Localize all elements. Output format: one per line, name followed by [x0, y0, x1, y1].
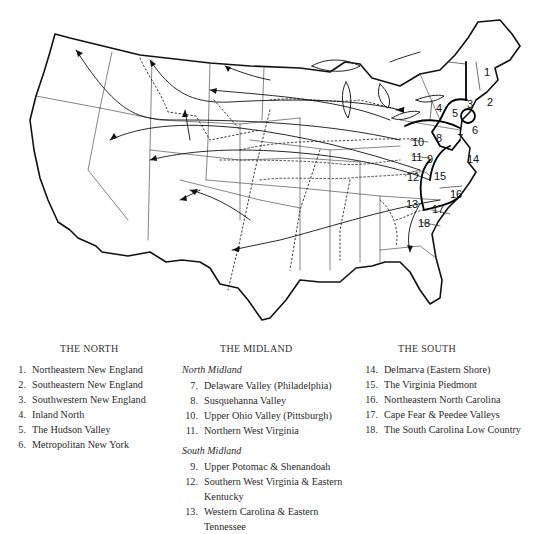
legend-item: 9.Upper Potomac & Shenandoah: [178, 459, 358, 474]
legend-item: 6.Metropolitan New York: [6, 437, 186, 452]
legend-item: 5.The Hudson Valley: [6, 422, 186, 437]
legend-item: 14.Delmarva (Eastern Shore): [358, 362, 550, 377]
dialect-map: 1 2 3 4 5 6 7 8 9 10 11 12 13 14 15 16 1…: [0, 0, 552, 340]
legend-item: 8.Susquehanna Valley: [178, 393, 358, 408]
region-label-10: 10: [412, 136, 424, 148]
region-label-13: 13: [406, 198, 418, 210]
region-label-2: 2: [487, 96, 493, 108]
heading-midland: The Midland: [220, 343, 292, 354]
us-outline: [30, 20, 520, 320]
region-label-14: 14: [467, 153, 479, 165]
legend-item: 11.Northern West Virginia: [178, 423, 358, 438]
legend-item: 16.Northeastern North Carolina: [358, 392, 550, 407]
legend-south: 14.Delmarva (Eastern Shore) 15.The Virgi…: [358, 362, 550, 437]
region-label-1: 1: [484, 66, 490, 78]
region-labels: 1 2 3 4 5 6 7 8 9 10 11 12 13 14 15 16 1…: [406, 66, 493, 229]
region-label-3: 3: [467, 98, 473, 110]
region-label-9: 9: [427, 153, 433, 165]
region-label-6: 6: [472, 124, 478, 136]
legend-north: 1.Northeastern New England 2.Southeaster…: [6, 362, 186, 452]
heading-north: The North: [60, 343, 118, 354]
legend-item: 18.The South Carolina Low Country: [358, 422, 550, 437]
region-label-11: 11: [411, 151, 422, 163]
region-label-12: 12: [407, 171, 419, 183]
region-label-5: 5: [452, 107, 458, 119]
region-label-18: 18: [418, 217, 430, 229]
legend-item: 12.Southern West Virginia & Eastern Kent…: [178, 474, 358, 504]
legend-item: 2.Southeastern New England: [6, 377, 186, 392]
legend-item: 15.The Virginia Piedmont: [358, 377, 550, 392]
legend-item: 17.Cape Fear & Peedee Valleys: [358, 407, 550, 422]
region-label-4: 4: [436, 102, 442, 114]
legend-item: 3.Southwestern New England: [6, 392, 186, 407]
region-label-15: 15: [434, 170, 446, 182]
legend-item: 7.Delaware Valley (Philadelphia): [178, 378, 358, 393]
region-label-7: 7: [457, 132, 463, 144]
legend-item: 13.Western Carolina & Eastern Tennessee: [178, 504, 358, 534]
region-label-17: 17: [432, 203, 444, 215]
legend-item: 4.Inland North: [6, 407, 186, 422]
legend-item: 10.Upper Ohio Valley (Pittsburgh): [178, 408, 358, 423]
region-label-8: 8: [436, 132, 442, 144]
legend-midland: North Midland 7.Delaware Valley (Philade…: [178, 362, 358, 534]
subheading-north-midland: North Midland: [178, 362, 358, 377]
subheading-south-midland: South Midland: [178, 443, 358, 458]
heading-south: The South: [398, 343, 456, 354]
legend-item: 1.Northeastern New England: [6, 362, 186, 377]
region-label-16: 16: [450, 188, 462, 200]
